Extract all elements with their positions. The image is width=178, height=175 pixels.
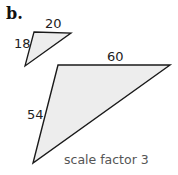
large-side-top-label: 60: [107, 50, 124, 63]
large-side-left-label: 54: [27, 108, 44, 121]
small-triangle: [25, 32, 71, 66]
small-side-top-label: 20: [45, 17, 62, 30]
scale-factor-caption: scale factor 3: [64, 152, 149, 167]
part-label: b.: [6, 4, 23, 23]
diagram-root: b. 20 18 60 54 scale factor 3: [0, 0, 178, 175]
large-triangle: [33, 65, 170, 163]
triangles-figure: [0, 0, 178, 175]
small-side-left-label: 18: [14, 37, 31, 50]
